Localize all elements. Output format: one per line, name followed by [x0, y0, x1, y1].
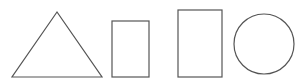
rectangle-shape	[178, 10, 222, 77]
shapes-diagram	[0, 0, 301, 84]
circle-shape	[234, 14, 294, 74]
triangle-shape	[12, 12, 102, 77]
square-shape	[112, 21, 149, 77]
